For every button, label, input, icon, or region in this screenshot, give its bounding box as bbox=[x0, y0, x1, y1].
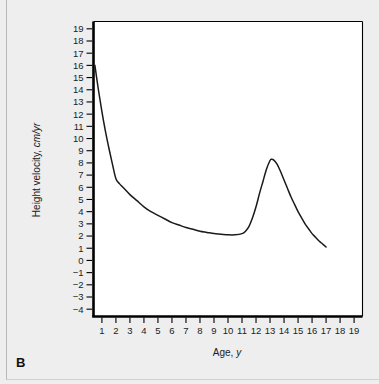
y-tick-label: 8 bbox=[78, 157, 83, 168]
x-axis-tick-labels: 12345678910111213141516171819 bbox=[99, 325, 359, 336]
x-tick-label: 3 bbox=[127, 325, 132, 336]
x-tick-label: 14 bbox=[279, 325, 290, 336]
y-tick-label: 3 bbox=[78, 218, 83, 229]
x-axis-ticks bbox=[102, 318, 354, 324]
plot-area-background bbox=[94, 22, 363, 317]
y-tick-label: 1 bbox=[78, 243, 83, 254]
x-tick-label: 9 bbox=[211, 325, 216, 336]
x-tick-label: 19 bbox=[349, 325, 360, 336]
y-tick-label: 15 bbox=[73, 72, 84, 83]
y-tick-label: −2 bbox=[73, 279, 84, 290]
growth-velocity-chart: 12345678910111213141516171819 1918171615… bbox=[0, 0, 379, 384]
y-tick-label: 0 bbox=[78, 255, 83, 266]
y-tick-label: 13 bbox=[73, 96, 84, 107]
y-tick-label: 2 bbox=[78, 230, 83, 241]
y-tick-label: 14 bbox=[73, 84, 84, 95]
x-tick-label: 8 bbox=[197, 325, 202, 336]
y-tick-label: 9 bbox=[78, 145, 83, 156]
y-tick-label: −3 bbox=[73, 291, 84, 302]
x-tick-label: 18 bbox=[335, 325, 346, 336]
x-tick-label: 15 bbox=[293, 325, 304, 336]
y-tick-label: 7 bbox=[78, 169, 83, 180]
panel-label: B bbox=[16, 355, 25, 370]
x-tick-label: 16 bbox=[307, 325, 318, 336]
y-tick-label: −4 bbox=[73, 304, 84, 315]
x-tick-label: 13 bbox=[265, 325, 276, 336]
x-tick-label: 2 bbox=[113, 325, 118, 336]
y-tick-label: 17 bbox=[73, 48, 84, 59]
x-tick-label: 5 bbox=[155, 325, 160, 336]
y-tick-label: 18 bbox=[73, 35, 84, 46]
x-tick-label: 11 bbox=[237, 325, 247, 336]
x-tick-label: 1 bbox=[99, 325, 104, 336]
x-tick-label: 10 bbox=[223, 325, 234, 336]
y-tick-label: 10 bbox=[73, 133, 84, 144]
y-tick-label: 11 bbox=[74, 121, 84, 132]
y-axis-title: Height velocity, cm/yr bbox=[31, 122, 42, 217]
x-tick-label: 12 bbox=[251, 325, 262, 336]
y-tick-label: 6 bbox=[78, 182, 83, 193]
y-axis-tick-labels: 191817161514131211109876543210−1−2−3−4 bbox=[73, 23, 84, 314]
x-tick-label: 17 bbox=[321, 325, 332, 336]
y-tick-label: −1 bbox=[73, 267, 84, 278]
y-tick-label: 12 bbox=[73, 109, 84, 120]
x-tick-label: 4 bbox=[141, 325, 146, 336]
y-axis-ticks bbox=[87, 29, 93, 309]
y-tick-label: 4 bbox=[78, 206, 83, 217]
x-tick-label: 7 bbox=[183, 325, 188, 336]
figure-panel: 12345678910111213141516171819 1918171615… bbox=[0, 0, 379, 384]
y-tick-label: 19 bbox=[73, 23, 84, 34]
x-tick-label: 6 bbox=[169, 325, 174, 336]
y-tick-label: 5 bbox=[78, 194, 83, 205]
x-axis-title: Age, y bbox=[213, 347, 242, 358]
y-tick-label: 16 bbox=[73, 60, 84, 71]
